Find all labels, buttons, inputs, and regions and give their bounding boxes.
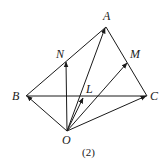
label-m: M <box>129 47 141 61</box>
vector-on <box>66 62 67 131</box>
label-b: B <box>12 89 20 103</box>
vector-ol <box>67 98 83 131</box>
vector-oc <box>67 96 146 131</box>
label-n: N <box>55 47 65 61</box>
geometry-diagram: A B C O N M L (2) <box>0 0 168 161</box>
vector-om <box>67 63 127 131</box>
vector-oa <box>67 28 105 131</box>
label-c: C <box>150 89 159 103</box>
label-a: A <box>102 9 111 23</box>
figure-caption: (2) <box>82 146 95 159</box>
label-o: O <box>62 133 71 147</box>
vector-ob <box>27 96 67 131</box>
segment-ac <box>106 27 147 96</box>
label-l: L <box>85 82 93 96</box>
